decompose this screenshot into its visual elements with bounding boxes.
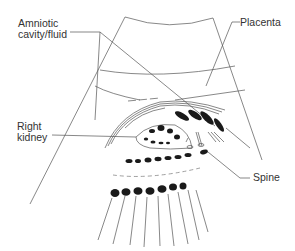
- placenta-boundary-2: [95, 86, 140, 100]
- spine-leader: [208, 152, 250, 178]
- label-placenta: Placenta: [240, 17, 281, 28]
- placenta-boundary-3: [175, 90, 245, 100]
- sector-left-edge: [30, 17, 125, 204]
- amniotic-leader-branch: [100, 32, 215, 126]
- sector-top-arc: [125, 17, 213, 25]
- placenta-boundary-1: [100, 66, 235, 74]
- ultrasound-diagram: Amniotic cavity/fluid Placenta Right kid…: [0, 0, 295, 251]
- label-right-kidney: Right kidney: [17, 121, 47, 143]
- label-spine: Spine: [253, 172, 280, 183]
- placenta-leader: [206, 22, 240, 86]
- label-amniotic-cavity-fluid: Amniotic cavity/fluid: [18, 18, 67, 40]
- amniotic-leader: [70, 32, 100, 120]
